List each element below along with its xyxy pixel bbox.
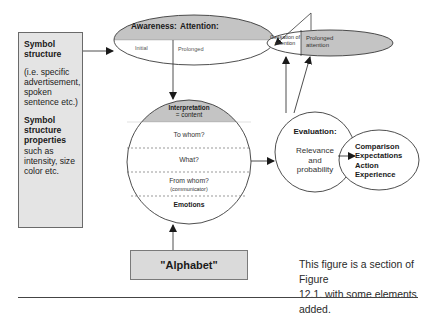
- properties-line: such as: [24, 146, 82, 156]
- evaluation-line: Relevance: [275, 146, 355, 156]
- properties-title: structure: [24, 125, 82, 135]
- outcome-list: Comparison Expectations Action Experienc…: [355, 142, 402, 179]
- properties-title: properties: [24, 135, 82, 145]
- symbol-structure-title-2: structure: [24, 49, 82, 59]
- prolonged-line-1: Prolonged: [306, 35, 333, 42]
- interpretation-title-2: = content: [139, 111, 239, 118]
- bottom-rule: [18, 297, 418, 298]
- emotions-label: Emotions: [139, 201, 239, 208]
- cessation-label: Cessation of attention: [270, 35, 300, 47]
- outcome-item: Comparison: [355, 142, 402, 151]
- outcome-item: Action: [355, 161, 402, 170]
- symbol-structure-box: Symbol structure (i.e. specific advertis…: [18, 32, 83, 228]
- to-whom-label: To whom?: [139, 131, 239, 138]
- example-line: advertisement,: [24, 77, 82, 87]
- figure-caption: This figure is a section of Figure 12.1.…: [299, 257, 436, 317]
- prolonged-line-2: attention: [306, 42, 333, 49]
- initial-label: Initial: [135, 46, 148, 52]
- properties-line: color etc.: [24, 166, 82, 176]
- outcome-item: Experience: [355, 170, 402, 179]
- interpretation-title: Interpretation = content: [139, 104, 239, 118]
- attention-label: Attention:: [180, 22, 219, 31]
- example-line: sentence etc.): [24, 97, 82, 107]
- evaluation-line: and: [275, 156, 355, 166]
- arrow-evaluation-to-prolonged: [294, 57, 310, 113]
- what-label: What?: [139, 156, 239, 163]
- from-whom-label: From whom?: [139, 177, 239, 184]
- interpretation-title-1: Interpretation: [139, 104, 239, 111]
- evaluation-body: Relevance and probability: [275, 146, 355, 175]
- evaluation-line: probability: [275, 165, 355, 175]
- caption-line-2: 12.1. with some elements added.: [299, 287, 436, 317]
- communicator-label: (communicator): [139, 187, 239, 193]
- example-line: (i.e. specific: [24, 67, 82, 77]
- evaluation-title: Evaluation:: [275, 128, 355, 137]
- prolonged-attention-label: Prolonged attention: [306, 35, 333, 48]
- outcome-item: Expectations: [355, 151, 402, 160]
- awareness-label: Awareness:: [131, 22, 177, 31]
- prolonged-label: Prolonged: [178, 46, 204, 52]
- cessation-line-2: attention: [270, 41, 300, 47]
- properties-line: intensity, size: [24, 156, 82, 166]
- symbol-structure-title: Symbol: [24, 39, 82, 49]
- properties-title: Symbol: [24, 115, 82, 125]
- alphabet-box: "Alphabet": [130, 250, 248, 280]
- example-line: spoken: [24, 87, 82, 97]
- caption-line-1: This figure is a section of Figure: [299, 257, 436, 287]
